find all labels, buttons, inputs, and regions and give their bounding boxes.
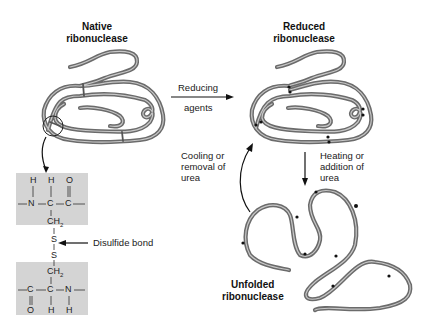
- native-ribonuclease-shape: [44, 51, 164, 142]
- cooling-arrow: [240, 148, 250, 212]
- unfolded-title: Unfolded ribonuclease: [222, 279, 302, 302]
- cooling-label-line2: removal of: [181, 161, 225, 172]
- reduced-title-line2: ribonuclease: [264, 33, 344, 45]
- chem-top-h1: H: [30, 175, 37, 185]
- unfolded-title-line1: Unfolded: [222, 279, 302, 291]
- heating-label-line1: Heating or: [320, 150, 364, 161]
- cooling-label-line3: urea: [181, 172, 225, 183]
- reduced-ribonuclease-shape: [252, 51, 372, 143]
- chem-bottom-ch: CH: [47, 266, 60, 276]
- chem-bottom-h1: H: [48, 305, 55, 315]
- reducing-label-line1: Reducing: [178, 82, 218, 93]
- chem-top-o: O: [66, 175, 73, 185]
- heating-label-line3: urea: [320, 172, 364, 183]
- chem-top-ch: CH: [47, 216, 60, 226]
- chem-top-ch2: CH2: [47, 216, 63, 228]
- chem-sulfur-1: S: [51, 234, 57, 244]
- native-title-line2: ribonuclease: [58, 33, 136, 45]
- native-title: Native ribonuclease: [58, 21, 136, 44]
- reduced-title-line1: Reduced: [264, 21, 344, 33]
- agents-label: agents: [184, 102, 213, 113]
- reducing-arrow-head: [226, 94, 234, 100]
- chem-top-sub: 2: [60, 222, 63, 228]
- heating-arrow-head: [302, 178, 308, 186]
- chem-bottom-h2: H: [66, 305, 73, 315]
- zoom-arrow-head: [43, 166, 49, 173]
- chem-sulfur-2: S: [51, 250, 57, 260]
- reducing-label: Reducing: [178, 82, 218, 93]
- heating-label: Heating or addition of urea: [320, 150, 364, 183]
- chem-bottom-sub: 2: [60, 272, 63, 278]
- reduced-title: Reduced ribonuclease: [264, 21, 344, 44]
- chem-bottom-c1: C: [27, 284, 34, 294]
- disulfide-bond-label: Disulfide bond: [93, 237, 153, 248]
- chem-top-h2: H: [48, 175, 55, 185]
- heating-label-line2: addition of: [320, 161, 364, 172]
- cooling-label: Cooling or removal of urea: [181, 150, 225, 183]
- unfolded-title-line2: ribonuclease: [222, 291, 302, 303]
- reducing-label-line2: agents: [184, 102, 213, 113]
- chem-bottom-o: O: [27, 305, 34, 315]
- disulfide-arrow-head: [58, 240, 66, 246]
- cooling-label-line1: Cooling or: [181, 150, 225, 161]
- native-title-line1: Native: [58, 21, 136, 33]
- zoom-arrow: [42, 137, 46, 170]
- chem-bottom-c2: C: [47, 284, 54, 294]
- chem-top-c1: C: [47, 198, 54, 208]
- chem-top-c2: C: [65, 198, 72, 208]
- cooling-arrow-head: [246, 143, 253, 152]
- chem-bottom-ch2: CH2: [47, 266, 63, 278]
- chem-top-n: N: [28, 198, 35, 208]
- chem-bottom-n: N: [65, 284, 72, 294]
